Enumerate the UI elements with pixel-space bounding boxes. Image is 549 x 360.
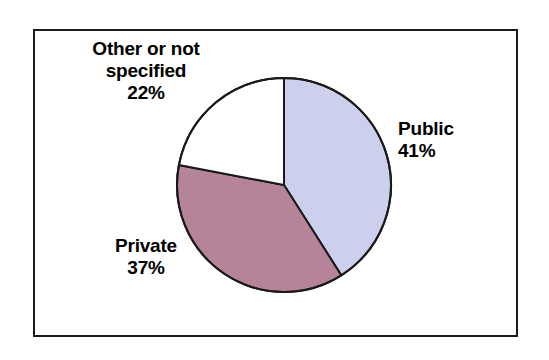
- pie-chart-figure: Other or not specified 22% Public 41% Pr…: [0, 0, 549, 360]
- pie-slice-group: [177, 78, 391, 292]
- pie-label-other-value: 22%: [66, 82, 226, 104]
- pie-label-public-name: Public: [398, 118, 508, 140]
- pie-label-other-name: Other or not specified: [66, 38, 226, 82]
- pie-label-private-value: 37%: [88, 257, 204, 279]
- pie-label-public-value: 41%: [398, 140, 508, 162]
- pie-label-public: Public 41%: [398, 118, 508, 162]
- pie-label-private: Private 37%: [88, 235, 204, 279]
- pie-label-other: Other or not specified 22%: [66, 38, 226, 104]
- pie-label-private-name: Private: [88, 235, 204, 257]
